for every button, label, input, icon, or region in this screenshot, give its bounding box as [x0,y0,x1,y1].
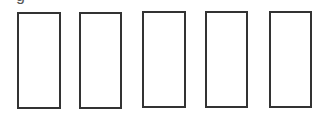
box-1 [17,12,61,109]
box-4 [205,11,248,108]
box-3 [142,11,186,108]
box-5 [269,11,312,108]
box-2 [79,12,122,109]
clipped-label: g [16,0,25,4]
